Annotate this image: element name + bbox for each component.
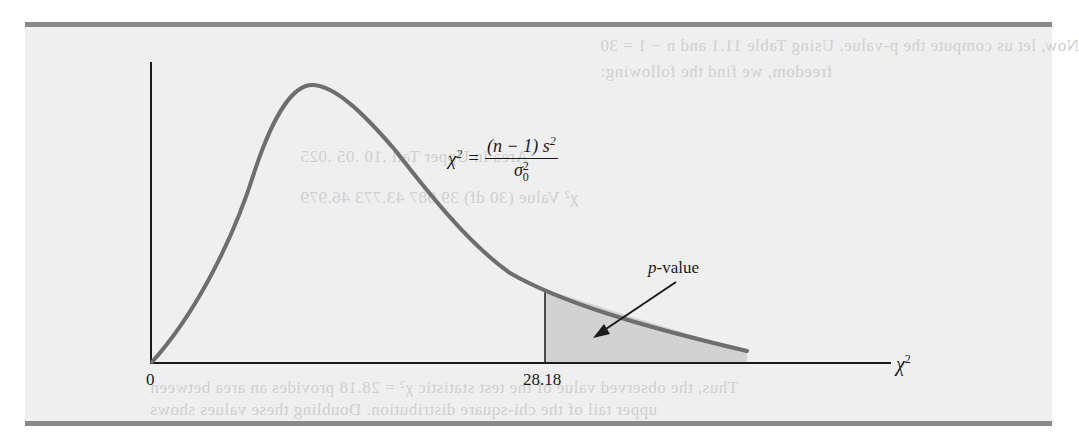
- formula-equals: =: [468, 147, 479, 169]
- test-statistic-formula: χ2 = (n − 1) s2 σ20: [448, 134, 558, 183]
- pvalue-label: p-value: [648, 258, 699, 278]
- formula-denominator: σ20: [514, 159, 529, 183]
- formula-lhs: χ2: [448, 147, 462, 170]
- origin-tick-label: 0: [146, 370, 155, 390]
- x-axis-label: χ2: [896, 352, 911, 376]
- formula-fraction: (n − 1) s2 σ20: [485, 134, 558, 183]
- chi-square-density-curve: [152, 85, 747, 362]
- formula-numerator: (n − 1) s2: [485, 134, 558, 159]
- cutoff-tick-label: 28.18: [523, 370, 561, 390]
